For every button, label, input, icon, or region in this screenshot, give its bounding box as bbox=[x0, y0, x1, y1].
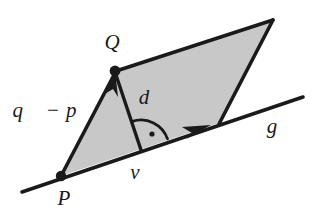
filled-dot-icon-p bbox=[56, 171, 66, 181]
geometry-figure: Q P q⃗ − p⃗ d v⃗ g bbox=[0, 0, 325, 217]
filled-dot-icon-q bbox=[110, 66, 121, 77]
label-point-p: P bbox=[58, 188, 71, 209]
label-distance-d: d bbox=[139, 87, 150, 108]
label-direction-vector-v: v⃗ bbox=[130, 162, 156, 183]
label-point-q: Q bbox=[104, 32, 119, 53]
label-line-g: g bbox=[267, 116, 278, 137]
right-angle-marker-icon bbox=[149, 131, 154, 136]
label-vector-difference: q⃗ − p⃗ bbox=[13, 100, 94, 121]
